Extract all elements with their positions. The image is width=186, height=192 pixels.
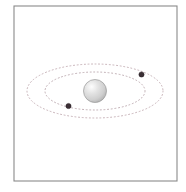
planet-marker-outer-right xyxy=(139,72,144,77)
orbital-diagram-figure xyxy=(0,0,186,192)
central-star xyxy=(84,80,107,103)
orbital-diagram-canvas xyxy=(0,0,186,192)
planet-marker-inner-left xyxy=(66,103,71,108)
